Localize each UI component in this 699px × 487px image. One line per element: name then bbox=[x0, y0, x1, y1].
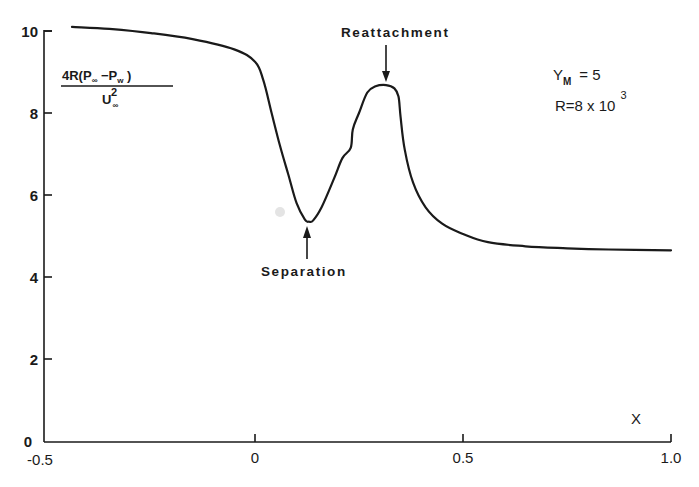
svg-text:U∞2: U∞2 bbox=[102, 86, 118, 110]
arrow-down-icon bbox=[382, 71, 390, 82]
x-tick-label: -0.5 bbox=[27, 451, 53, 468]
data-line bbox=[72, 27, 671, 250]
y-tick-label: 6 bbox=[30, 187, 38, 204]
y-tick-label: 10 bbox=[21, 23, 38, 40]
y-ticks: 0246810 bbox=[21, 23, 52, 450]
ym-label: Y bbox=[553, 66, 563, 83]
parameters-box: YM= 5 R=8 x 103 bbox=[553, 66, 627, 114]
chart: 0246810 -0.500.51.0 4R(P∞ −Pw ) U∞2 YM= … bbox=[0, 0, 699, 487]
svg-text:4R(P∞ −Pw ): 4R(P∞ −Pw ) bbox=[62, 68, 131, 85]
x-axis-label: X bbox=[631, 410, 641, 427]
separation-label: Separation bbox=[261, 264, 347, 279]
x-ticks: -0.500.51.0 bbox=[27, 434, 681, 468]
x-tick-label: 1.0 bbox=[661, 449, 682, 466]
reattachment-label: Reattachment bbox=[341, 25, 449, 40]
svg-text:YM= 5: YM= 5 bbox=[553, 66, 601, 87]
ylabel-numerator: 4R(P bbox=[62, 68, 92, 83]
reattachment-annotation: Reattachment bbox=[341, 25, 449, 82]
x-tick-label: 0 bbox=[251, 449, 259, 466]
separation-annotation: Separation bbox=[261, 226, 347, 279]
ylabel-denominator: U bbox=[102, 92, 111, 107]
y-tick-label: 8 bbox=[30, 105, 38, 122]
svg-text:R=8 x 103: R=8 x 103 bbox=[555, 89, 627, 114]
y-axis-label: 4R(P∞ −Pw ) U∞2 bbox=[61, 68, 173, 110]
smudge bbox=[275, 207, 285, 217]
y-tick-label: 4 bbox=[30, 269, 39, 286]
arrow-up-icon bbox=[303, 226, 311, 238]
y-tick-label: 0 bbox=[24, 433, 32, 450]
y-tick-label: 2 bbox=[30, 351, 38, 368]
x-tick-label: 0.5 bbox=[453, 449, 474, 466]
r-label: R=8 x 10 bbox=[555, 97, 615, 114]
